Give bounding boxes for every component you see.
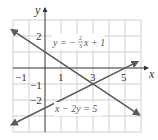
x-tick-1: 1 xyxy=(58,71,64,83)
x-axis-label: x xyxy=(148,67,155,81)
y-axis-label: y xyxy=(34,3,41,17)
y-tick-neg2: −2 xyxy=(30,94,42,106)
eq2-label: x − 2y = 5 xyxy=(54,103,97,114)
eq1-denominator: 3 xyxy=(79,43,82,49)
y-tick-neg1: −1 xyxy=(30,79,42,91)
graph: y = − 2 3 x + 1 x − 2y = 5 −1 1 3 5 2 −1… xyxy=(0,0,158,140)
x-tick-neg1: −1 xyxy=(15,71,27,83)
eq1-numerator: 2 xyxy=(79,35,82,41)
x-tick-5: 5 xyxy=(121,71,127,83)
eq1-prefix: y = − xyxy=(52,37,76,48)
y-tick-2: 2 xyxy=(36,30,42,42)
eq1-suffix: x + 1 xyxy=(83,37,105,48)
x-tick-3: 3 xyxy=(90,71,96,83)
